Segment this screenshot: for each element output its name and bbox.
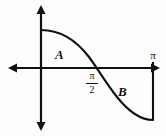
- x-tick-label-pi: π: [146, 50, 160, 61]
- x-tick-label-pi-over-two: π 2: [83, 71, 101, 95]
- fraction-denominator: 2: [83, 84, 101, 96]
- region-label-a: A: [55, 48, 64, 61]
- math-figure: A B π π 2: [0, 0, 166, 136]
- fraction-numerator: π: [83, 71, 101, 83]
- region-label-b: B: [118, 85, 127, 98]
- y-axis-bottom-arrowhead: [37, 122, 46, 131]
- x-axis-left-arrowhead: [8, 64, 17, 73]
- graph-canvas: [0, 0, 166, 136]
- y-axis-top-arrowhead: [37, 5, 46, 14]
